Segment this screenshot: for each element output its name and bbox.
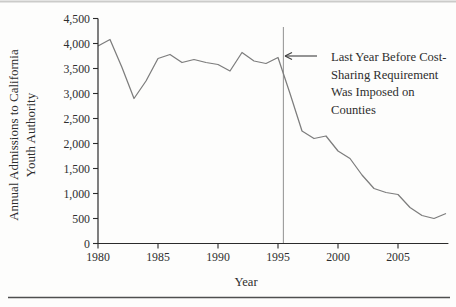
annotation-text-block: Last Year Before Cost- Sharing Requireme… <box>331 50 446 117</box>
x-tick-label: 1990 <box>206 250 230 264</box>
admissions-chart-figure: 05001,0001,5002,0002,5003,0003,5004,0004… <box>0 0 456 307</box>
x-tick-label: 2005 <box>386 250 410 264</box>
y-tick-label: 2,000 <box>63 137 90 151</box>
y-axis-title-line-1: Annual Admissions to California <box>6 49 21 221</box>
y-tick-label: 4,500 <box>63 12 90 26</box>
y-tick-label: 3,000 <box>63 87 90 101</box>
y-tick-label: 1,000 <box>63 187 90 201</box>
annotation-line-2: Sharing Requirement <box>331 68 439 82</box>
y-tick-label: 2,500 <box>63 112 90 126</box>
y-axis-title-line-2: Youth Authority <box>23 92 38 177</box>
annotation-line-3: Was Imposed on <box>331 85 415 99</box>
annotation-arrow <box>285 52 317 59</box>
data-series-layer <box>98 40 446 219</box>
admissions-line-series <box>98 40 446 219</box>
y-tick-label: 3,500 <box>63 62 90 76</box>
y-tick-label: 0 <box>84 237 90 251</box>
annotation-line-4: Counties <box>331 103 376 117</box>
x-axis-title: Year <box>234 275 258 289</box>
x-tick-label: 1980 <box>86 250 110 264</box>
y-tick-label: 4,000 <box>63 37 90 51</box>
chart-svg: 05001,0001,5002,0002,5003,0003,5004,0004… <box>0 0 456 307</box>
x-tick-label: 2000 <box>326 250 350 264</box>
x-tick-label: 1995 <box>266 250 290 264</box>
annotation-line-1: Last Year Before Cost- <box>331 50 446 64</box>
y-tick-label: 500 <box>72 212 90 226</box>
x-tick-label: 1985 <box>146 250 170 264</box>
y-tick-label: 1,500 <box>63 162 90 176</box>
